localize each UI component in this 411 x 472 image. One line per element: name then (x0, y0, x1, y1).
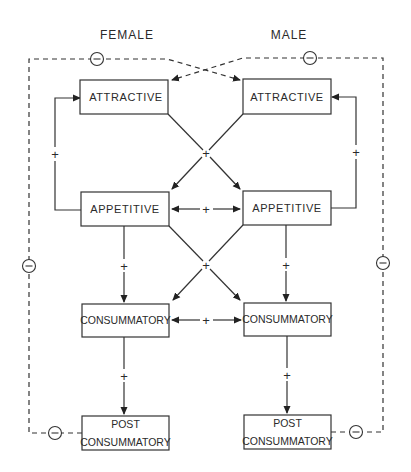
plus-sign: + (283, 368, 291, 383)
female-column-label: FEMALE (100, 28, 154, 42)
svg-text:CONSUMMATORY: CONSUMMATORY (80, 436, 170, 448)
attractive-cross-connections: + (168, 114, 243, 189)
sexual-behavior-diagram: FEMALE MALE + + + (0, 0, 411, 472)
appetitive-mutual-connection: + (172, 202, 240, 217)
svg-text:APPETITIVE: APPETITIVE (90, 203, 160, 215)
svg-text:CONSUMMATORY: CONSUMMATORY (242, 313, 332, 325)
consummatory-mutual-connection: + (172, 313, 241, 328)
plus-sign: + (51, 147, 59, 162)
plus-sign: + (202, 146, 210, 161)
svg-text:POST: POST (273, 417, 302, 429)
male-appetitive-box: APPETITIVE (243, 191, 331, 225)
male-appetitive-to-consummatory: + (282, 225, 290, 301)
female-appetitive-box: APPETITIVE (81, 192, 169, 226)
plus-sign: + (120, 259, 128, 274)
plus-sign: + (202, 258, 210, 273)
plus-sign: + (202, 313, 210, 328)
svg-text:ATTRACTIVE: ATTRACTIVE (250, 91, 324, 103)
female-post-consummatory-box: POST CONSUMMATORY (80, 416, 170, 450)
svg-text:CONSUMMATORY: CONSUMMATORY (242, 435, 332, 447)
female-consummatory-box: CONSUMMATORY (80, 304, 170, 337)
plus-sign: + (202, 202, 210, 217)
female-consummatory-to-post: + (120, 337, 128, 414)
plus-sign: + (282, 258, 290, 273)
male-attractive-box: ATTRACTIVE (243, 79, 331, 114)
svg-text:APPETITIVE: APPETITIVE (252, 202, 322, 214)
male-column-label: MALE (271, 28, 308, 42)
male-consummatory-to-post: + (283, 336, 291, 413)
appetitive-cross-connections: + (169, 225, 243, 300)
plus-sign: + (352, 145, 360, 160)
male-post-consummatory-box: POST CONSUMMATORY (242, 415, 332, 449)
male-appetitive-feedback-loop: + (331, 97, 361, 208)
female-appetitive-to-consummatory: + (120, 226, 128, 302)
female-appetitive-feedback-loop: + (50, 98, 81, 210)
plus-sign: + (120, 369, 128, 384)
male-consummatory-box: CONSUMMATORY (242, 303, 332, 336)
svg-text:ATTRACTIVE: ATTRACTIVE (89, 91, 163, 103)
svg-text:POST: POST (111, 418, 140, 430)
female-attractive-box: ATTRACTIVE (80, 80, 168, 114)
svg-text:CONSUMMATORY: CONSUMMATORY (80, 314, 170, 326)
